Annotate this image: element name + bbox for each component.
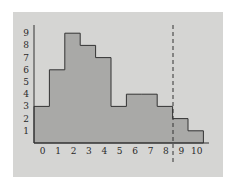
x-tick-label: 0 [40,146,46,156]
x-tick-label: 3 [86,146,92,156]
y-tick-label: 8 [23,40,29,50]
y-tick-labels: 123456789 [23,28,29,136]
y-tick-label: 4 [23,89,29,99]
x-tick-label: 6 [132,146,138,156]
x-tick-labels: 012345678910 [40,146,203,156]
y-tick-label: 7 [23,53,29,63]
y-tick-label: 1 [23,126,29,136]
x-tick-label: 8 [163,146,169,156]
y-tick-label: 3 [23,101,29,111]
x-tick-label: 7 [148,146,154,156]
x-tick-label: 9 [178,146,184,156]
x-tick-label: 1 [55,146,61,156]
bars-group [34,33,203,143]
x-tick-label: 2 [71,146,77,156]
y-tick-label: 2 [23,114,29,124]
x-tick-label: 5 [117,146,123,156]
x-tick-label: 10 [191,146,203,156]
histogram-bars [34,33,203,143]
y-tick-label: 9 [23,28,29,38]
y-tick-label: 5 [23,77,29,87]
y-tick-label: 6 [23,65,29,75]
histogram-chart: 123456789 012345678910 [0,0,236,187]
x-tick-label: 4 [101,146,107,156]
